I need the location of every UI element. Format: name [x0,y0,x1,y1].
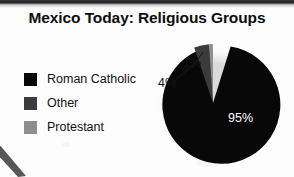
scan-corner-artifact [0,143,28,177]
pie-svg [150,38,294,177]
legend-item-label: Roman Catholic [47,72,136,86]
legend-swatch-icon [24,121,37,134]
pie-chart: 4% 1% 95% [150,38,294,177]
chart-figure: Mexico Today: Religious Groups Roman Cat… [0,0,294,177]
legend-item-label: Other [47,96,78,110]
pie-label-protestant: 1% [183,56,201,70]
legend-item-other[interactable]: Other [24,91,164,115]
legend-item-label: Protestant [47,120,104,134]
scan-noise [62,142,71,147]
pie-label-other: 4% [158,76,176,90]
legend-item-protestant[interactable]: Protestant [24,115,164,139]
legend-swatch-icon [24,97,37,110]
page-edge-shadow [0,5,294,8]
legend-swatch-icon [24,73,37,86]
legend-item-roman-catholic[interactable]: Roman Catholic [24,67,164,91]
chart-title: Mexico Today: Religious Groups [0,9,294,27]
chart-legend: Roman Catholic Other Protestant [24,67,164,139]
pie-label-roman-catholic: 95% [228,111,253,125]
